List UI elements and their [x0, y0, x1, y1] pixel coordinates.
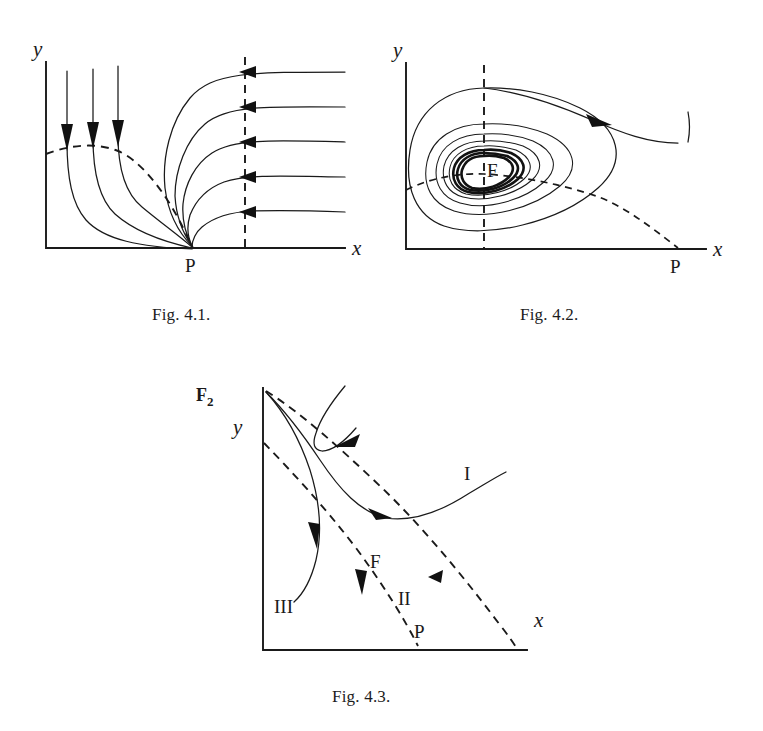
- fig1-trajectory: [164, 72, 345, 246]
- fig3-region-label-III: III: [274, 596, 293, 617]
- fig2-y-axis-label: y: [391, 38, 403, 62]
- figure-4-3: F2 y x I F II III P: [196, 385, 544, 650]
- fig2-stray-mark: [688, 112, 690, 142]
- fig1-flow-arrow-left: [239, 101, 256, 113]
- fig3-region-label-II: II: [398, 588, 411, 609]
- fig1-trajectory: [192, 211, 345, 247]
- fig1-x-axis-label: x: [351, 236, 362, 260]
- fig3-y-axis-label: y: [231, 415, 243, 439]
- figure-4-3-caption: Fig. 4.3.: [332, 687, 390, 707]
- fig1-point-label-P: P: [185, 255, 196, 276]
- fig2-x-axis-label: x: [712, 237, 723, 261]
- fig3-flow-arrow-right: [428, 570, 443, 583]
- figure-4-2: y x F P: [391, 38, 723, 277]
- fig2-point-label-F: F: [487, 160, 498, 181]
- fig1-flow-arrow-left: [239, 171, 256, 183]
- fig2-axes: [406, 63, 706, 249]
- fig1-trajectory: [67, 71, 192, 249]
- figure-plate: y x P y x F P: [0, 0, 763, 731]
- fig2-flow-arrow: [586, 114, 612, 127]
- fig3-trajectory-III: [266, 392, 319, 602]
- figure-4-2-caption: Fig. 4.2.: [520, 305, 578, 325]
- fig3-trajectory-I: [266, 392, 506, 519]
- fig2-incoming-trajectory: [484, 88, 678, 143]
- fig1-trajectory: [183, 141, 345, 246]
- fig1-flow-arrow-left: [239, 136, 256, 148]
- fig3-point-label-F: F: [370, 551, 381, 572]
- figure-4-1: y x P: [31, 37, 362, 276]
- fig3-point-label-F2: F2: [196, 385, 214, 409]
- fig3-region-label-I: I: [464, 463, 470, 484]
- fig1-flow-arrow-down: [61, 124, 73, 151]
- fig3-x-axis-label: x: [533, 608, 544, 632]
- fig1-trajectory: [93, 69, 192, 248]
- fig1-axes: [46, 62, 345, 248]
- fig1-flow-arrow-left: [239, 66, 256, 78]
- fig1-flow-arrow-down: [112, 120, 124, 147]
- fig3-flow-arrow-left: [368, 508, 392, 520]
- fig3-flow-arrow-up: [355, 569, 367, 595]
- figure-4-1-caption: Fig. 4.1.: [152, 305, 210, 325]
- fig1-flow-arrow-left: [239, 206, 256, 218]
- fig1-y-axis-label: y: [31, 37, 43, 61]
- fig3-point-label-P: P: [414, 621, 425, 642]
- fig2-closed-orbit: [426, 124, 573, 215]
- fig2-point-label-P: P: [670, 256, 681, 277]
- fig3-dashed-nullcline-upper: [266, 391, 518, 650]
